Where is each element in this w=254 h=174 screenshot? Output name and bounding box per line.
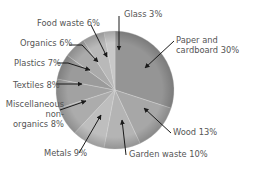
label-metals: Metals 9% (44, 148, 87, 158)
label-misc-non-organics: Miscellaneous non- organics 8% (4, 99, 64, 129)
label-plastics: Plastics 7% (14, 58, 61, 68)
label-paper-line2: cardboard 30% (176, 45, 239, 55)
label-paper-cardboard: Paper and cardboard 30% (176, 35, 239, 55)
label-garden-waste: Garden waste 10% (129, 149, 208, 159)
pie-shadow (56, 31, 174, 149)
label-wood: Wood 13% (173, 127, 217, 137)
label-textiles: Textiles 8% (13, 80, 60, 90)
label-paper-line1: Paper and (176, 35, 239, 45)
label-food-waste: Food waste 6% (37, 18, 100, 28)
label-misc-line1: Miscellaneous (4, 99, 64, 109)
label-glass: Glass 3% (124, 9, 162, 19)
label-misc-line2: non- (4, 109, 64, 119)
label-misc-line3: organics 8% (4, 119, 64, 129)
label-organics: Organics 6% (20, 38, 72, 48)
